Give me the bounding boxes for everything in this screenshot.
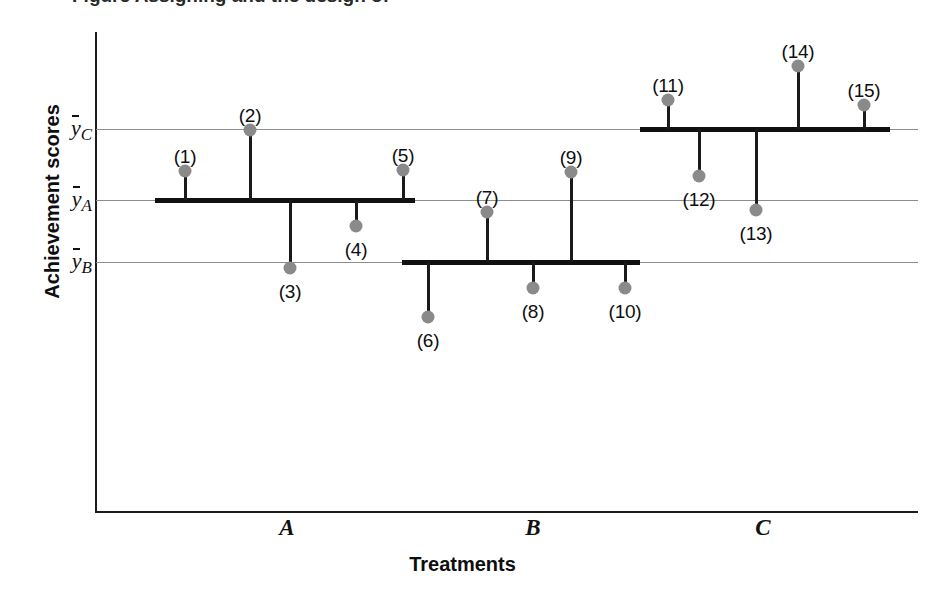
stem-point-3 <box>289 200 292 268</box>
y-tick-label-a: yA <box>72 184 92 216</box>
data-dot-12 <box>693 170 706 183</box>
y-subscript-a: A <box>82 196 92 215</box>
point-label-13: (13) <box>740 223 773 245</box>
point-label-1: (1) <box>174 146 197 168</box>
y-tick-label-c: yC <box>71 113 92 145</box>
stem-point-13 <box>755 129 758 210</box>
achievement-scores-figure: Figure Assigning and the design of (1)(2… <box>0 0 925 597</box>
x-tick-label-a: A <box>279 515 294 541</box>
y-tick-label-b: yB <box>72 246 92 278</box>
point-label-6: (6) <box>417 330 440 352</box>
stem-point-6 <box>427 262 430 317</box>
group-mean-bar-a <box>155 198 415 203</box>
stem-point-2 <box>249 130 252 200</box>
point-label-8: (8) <box>522 301 545 323</box>
y-bar-glyph-c: y <box>71 113 81 141</box>
clipped-caption-text: Figure Assigning and the design of <box>72 0 389 7</box>
point-label-9: (9) <box>560 147 583 169</box>
y-axis-title: Achievement scores <box>41 82 64 322</box>
group-mean-bar-c <box>640 127 890 132</box>
stem-point-7 <box>486 212 489 262</box>
x-axis-title: Treatments <box>0 553 925 576</box>
y-axis-line <box>95 32 97 513</box>
data-dot-13 <box>750 204 763 217</box>
y-subscript-c: C <box>81 125 92 144</box>
x-tick-label-c: C <box>755 515 770 541</box>
clipped-caption-strip: Figure Assigning and the design of <box>0 0 925 14</box>
data-dot-4 <box>350 220 363 233</box>
data-dot-6 <box>422 311 435 324</box>
stem-point-14 <box>797 66 800 129</box>
point-label-10: (10) <box>609 301 642 323</box>
y-bar-glyph-a: y <box>72 184 82 212</box>
point-label-14: (14) <box>782 41 815 63</box>
data-dot-8 <box>527 282 540 295</box>
point-label-12: (12) <box>683 189 716 211</box>
y-bar-glyph-b: y <box>72 246 82 274</box>
point-label-2: (2) <box>239 105 262 127</box>
data-dot-3 <box>284 262 297 275</box>
group-mean-bar-b <box>402 260 640 265</box>
stem-point-9 <box>570 172 573 262</box>
point-label-5: (5) <box>392 145 415 167</box>
point-label-11: (11) <box>652 75 684 97</box>
point-label-15: (15) <box>848 80 881 102</box>
point-label-7: (7) <box>476 187 499 209</box>
data-dot-10 <box>619 282 632 295</box>
y-subscript-b: B <box>82 258 92 277</box>
point-label-4: (4) <box>345 239 368 261</box>
x-axis-line <box>95 511 918 513</box>
point-label-3: (3) <box>279 281 302 303</box>
x-tick-label-b: B <box>525 515 540 541</box>
